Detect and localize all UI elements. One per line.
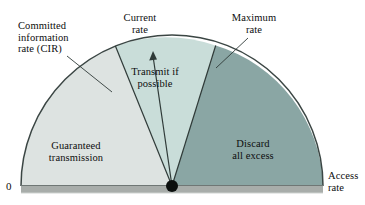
label-current-rate-line-2: rate (112, 24, 168, 36)
label-transmit-line-1: Transmit if (118, 66, 192, 78)
pivot-point-dot (166, 180, 178, 192)
label-access-rate-line-1: Access (328, 170, 358, 182)
rate-diagram: Committed information rate (CIR) Current… (0, 0, 365, 205)
label-maximum-rate-line-1: Maximum (222, 12, 286, 24)
label-current-rate-line-1: Current (112, 12, 168, 24)
label-transmit-line-2: possible (118, 78, 192, 90)
label-maximum-rate: Maximum rate (222, 12, 286, 35)
label-cir-line-2: information (18, 32, 69, 44)
sector-group (21, 37, 323, 186)
label-current-rate: Current rate (112, 12, 168, 35)
label-guaranteed-transmission: Guaranteed transmission (28, 140, 124, 163)
label-discard-line-2: all excess (216, 150, 290, 162)
label-origin-zero: 0 (6, 181, 12, 193)
label-cir-line-3: rate (CIR) (18, 43, 69, 55)
label-transmit-if-possible: Transmit if possible (118, 66, 192, 89)
label-access-rate-line-2: rate (328, 182, 358, 194)
label-discard-all-excess: Discard all excess (216, 138, 290, 161)
label-cir-line-1: Committed (18, 20, 69, 32)
label-guaranteed-line-1: Guaranteed (28, 140, 124, 152)
label-committed-information-rate: Committed information rate (CIR) (18, 20, 69, 55)
label-access-rate: Access rate (328, 170, 358, 193)
label-discard-line-1: Discard (216, 138, 290, 150)
label-guaranteed-line-2: transmission (28, 152, 124, 164)
label-maximum-rate-line-2: rate (222, 24, 286, 36)
